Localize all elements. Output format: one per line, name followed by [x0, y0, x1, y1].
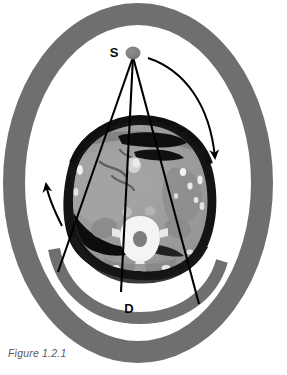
inferior-vena-cava [145, 207, 156, 216]
rim-marker-1 [77, 165, 83, 175]
calcification-2 [187, 183, 192, 190]
ct-scanner-schematic: S D Figure 1.2.1 [0, 0, 287, 375]
calcification-3 [194, 197, 199, 203]
contrast-vessel-core [132, 159, 140, 168]
calcification-4 [174, 193, 178, 199]
figure-caption: Figure 1.2.1 [8, 347, 66, 359]
calcification-1 [180, 168, 186, 176]
aorta [122, 207, 132, 217]
rim-marker-4 [200, 202, 205, 210]
rim-marker-2 [74, 188, 79, 196]
source-label: S [110, 45, 119, 60]
xray-source-dot [126, 47, 141, 60]
rim-marker-3 [197, 176, 202, 185]
detector-label: D [124, 301, 133, 316]
spinal-canal [133, 231, 147, 247]
figure-container: S D Figure 1.2.1 [0, 0, 287, 375]
